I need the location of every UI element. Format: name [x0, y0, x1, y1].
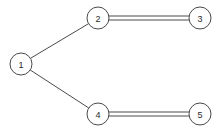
graph-canvas: 1 2 3 4 5 [0, 0, 220, 134]
node-1-label: 1 [18, 60, 23, 70]
edge-1-2 [30, 24, 88, 59]
edge-2-3 [109, 16, 189, 20]
node-3[interactable]: 3 [189, 7, 211, 29]
edge-1-4 [30, 70, 89, 108]
edge-layer [30, 16, 189, 116]
node-2-label: 2 [95, 14, 100, 24]
node-2[interactable]: 2 [87, 7, 109, 29]
node-layer: 1 2 3 4 5 [10, 7, 211, 125]
edge-1-2-line-1 [30, 24, 88, 59]
edge-4-5 [109, 112, 189, 116]
node-3-label: 3 [197, 14, 202, 24]
node-4[interactable]: 4 [87, 103, 109, 125]
edge-1-4-line-1 [30, 70, 89, 108]
node-5[interactable]: 5 [189, 103, 211, 125]
node-4-label: 4 [95, 110, 100, 120]
node-5-label: 5 [197, 110, 202, 120]
graph-figure: 1 2 3 4 5 [0, 0, 220, 134]
node-1[interactable]: 1 [10, 53, 32, 75]
